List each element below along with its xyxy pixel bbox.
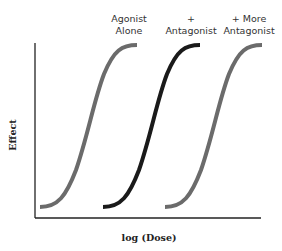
label-series1-line1: Agonist — [111, 13, 147, 24]
curve-plus-more-antagonist — [165, 45, 262, 207]
x-axis-label: log (Dose) — [122, 232, 177, 243]
label-series2-line2: Antagonist — [165, 25, 217, 36]
dose-response-chart: Agonist Alone + Antagonist + More Antago… — [0, 0, 282, 251]
curve-plus-antagonist — [103, 45, 200, 207]
label-series3-line1: + More — [232, 13, 267, 24]
y-axis-label: Effect — [7, 119, 18, 151]
label-series1-line2: Alone — [116, 25, 143, 36]
label-series2-line1: + — [187, 13, 195, 24]
label-series3-line2: Antagonist — [223, 25, 275, 36]
curve-agonist-alone — [40, 45, 137, 207]
